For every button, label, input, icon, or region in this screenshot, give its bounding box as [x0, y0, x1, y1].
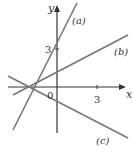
line-c-label: (c)	[96, 135, 110, 146]
x-tick-label: 3	[94, 94, 100, 105]
diagram-svg: y x 0 3 3 (a) (b) (c)	[0, 0, 134, 153]
y-tick-label: 3	[45, 44, 51, 55]
line-b-label: (b)	[114, 46, 128, 57]
line-c	[8, 76, 128, 138]
line-b	[13, 35, 128, 95]
coordinate-diagram: y x 0 3 3 (a) (b) (c)	[0, 0, 134, 153]
y-axis-arrow-icon	[54, 5, 60, 12]
x-axis-arrow-icon	[119, 84, 126, 90]
line-a-label: (a)	[72, 15, 86, 26]
y-axis-label: y	[47, 2, 55, 15]
x-axis-label: x	[126, 88, 133, 101]
origin-label: 0	[47, 90, 53, 101]
